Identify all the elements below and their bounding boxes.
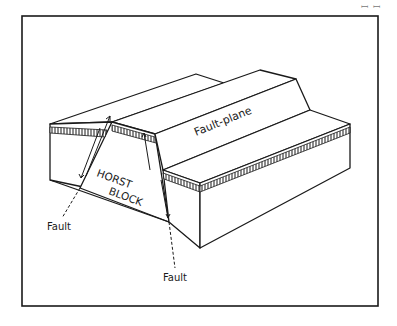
fault-label-left: Fault xyxy=(47,221,71,232)
left-fault-leader xyxy=(62,188,80,218)
right-fault-leader xyxy=(169,222,175,268)
fault-label-right: Fault xyxy=(163,272,187,283)
horst-block-diagram: Fault-plane HORST BLOCK Fault Fault xyxy=(0,0,397,326)
